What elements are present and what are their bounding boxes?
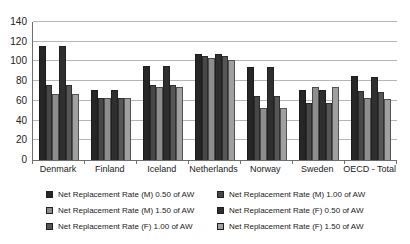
legend-swatch-icon [46, 223, 53, 230]
x-category-label: Netherlands [188, 164, 240, 174]
bar [260, 108, 267, 160]
bar-group [345, 22, 397, 160]
legend-item: Net Replacement Rate (M) 1.50 of AW [46, 205, 217, 215]
bar [306, 103, 313, 160]
legend-swatch-icon [217, 207, 224, 214]
bar [195, 54, 202, 160]
x-category-label: Norway [239, 164, 291, 174]
y-tick-label: 40 [1, 116, 27, 126]
y-tick-label: 140 [1, 17, 27, 27]
legend-label: Net Replacement Rate (M) 1.50 of AW [58, 206, 194, 215]
bar-group [85, 22, 137, 160]
legend-item: Net Replacement Rate (F) 1.50 of AW [217, 221, 365, 231]
bar [202, 56, 209, 160]
legend-item: Net Replacement Rate (M) 1.00 of AW [217, 189, 365, 199]
bar-group [241, 22, 293, 160]
legend-swatch-icon [217, 223, 224, 230]
bar-group [189, 22, 241, 160]
bar-groups [33, 22, 397, 160]
bar [111, 90, 118, 160]
y-tick-label: 0 [1, 155, 27, 165]
bar [228, 60, 235, 160]
bar [280, 108, 287, 160]
bar [371, 77, 378, 160]
y-tick-label: 20 [1, 135, 27, 145]
legend-swatch-icon [46, 207, 53, 214]
x-category-label: OECD - Total [343, 164, 396, 174]
bar [384, 99, 391, 160]
bar [46, 85, 53, 160]
legend-item: Net Replacement Rate (F) 1.00 of AW [46, 221, 217, 231]
legend: Net Replacement Rate (M) 0.50 of AWNet R… [46, 189, 365, 231]
bar [351, 76, 358, 160]
bar [59, 46, 66, 160]
y-tick-label: 80 [1, 76, 27, 86]
y-tick-label: 120 [1, 37, 27, 47]
bar [319, 90, 326, 160]
bar [118, 98, 125, 160]
bar [176, 87, 183, 160]
x-category-label: Iceland [136, 164, 188, 174]
bar [91, 90, 98, 160]
legend-label: Net Replacement Rate (F) 0.50 of AW [229, 206, 363, 215]
bar-group [293, 22, 345, 160]
bar [72, 94, 79, 160]
bar [150, 85, 157, 160]
bar [124, 98, 131, 160]
x-axis-labels: DenmarkFinlandIcelandNetherlandsNorwaySw… [32, 164, 396, 174]
bar-group [137, 22, 189, 160]
bar-group [33, 22, 85, 160]
legend-item: Net Replacement Rate (M) 0.50 of AW [46, 189, 217, 199]
bar [254, 96, 261, 160]
bar [312, 87, 319, 160]
bar [364, 98, 371, 160]
x-category-label: Denmark [32, 164, 84, 174]
bar [170, 85, 177, 160]
bar [39, 46, 46, 160]
bar [163, 66, 170, 160]
bar [156, 87, 163, 160]
bar [358, 91, 365, 160]
bar [274, 96, 281, 160]
bar [208, 58, 215, 161]
bar [215, 54, 222, 160]
x-axis-tick [396, 161, 397, 164]
x-category-label: Sweden [291, 164, 343, 174]
y-tick-label: 60 [1, 96, 27, 106]
legend-item: Net Replacement Rate (F) 0.50 of AW [217, 205, 365, 215]
legend-label: Net Replacement Rate (M) 0.50 of AW [58, 190, 194, 199]
bar [326, 103, 333, 160]
bar [143, 66, 150, 160]
bar [66, 85, 73, 160]
bar [299, 90, 306, 160]
plot-area [32, 22, 397, 161]
bar [267, 67, 274, 160]
bar [104, 98, 111, 160]
legend-label: Net Replacement Rate (M) 1.00 of AW [229, 190, 365, 199]
y-tick-label: 100 [1, 56, 27, 66]
bar [378, 92, 385, 160]
legend-swatch-icon [217, 191, 224, 198]
bar [52, 94, 59, 160]
legend-swatch-icon [46, 191, 53, 198]
legend-label: Net Replacement Rate (F) 1.50 of AW [229, 222, 363, 231]
bar [222, 56, 229, 160]
legend-label: Net Replacement Rate (F) 1.00 of AW [58, 222, 192, 231]
bar [247, 67, 254, 160]
bar [332, 87, 339, 160]
bar [98, 98, 105, 160]
bar-chart: 020406080100120140 DenmarkFinlandIceland… [0, 0, 410, 244]
x-category-label: Finland [84, 164, 136, 174]
